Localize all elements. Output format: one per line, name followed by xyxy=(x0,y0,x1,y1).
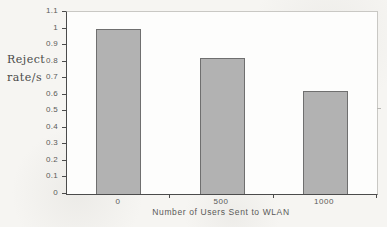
x-tick-mark xyxy=(273,194,274,198)
y-tick-mark xyxy=(62,44,66,45)
x-category-label: 500 xyxy=(199,197,243,206)
y-tick-label: 0.9 xyxy=(32,39,58,49)
y-tick-label: 0.1 xyxy=(32,171,58,181)
x-category-label: 0 xyxy=(96,197,140,206)
y-tick-mark xyxy=(62,160,66,161)
y-tick-label: 0.5 xyxy=(32,105,58,115)
y-tick-label: 0.2 xyxy=(32,155,58,165)
y-tick-mark xyxy=(62,143,66,144)
y-tick-mark xyxy=(62,28,66,29)
y-tick-mark xyxy=(62,193,66,194)
y-tick-label: 0.8 xyxy=(32,56,58,66)
x-category-label: 1000 xyxy=(302,197,346,206)
plot-area xyxy=(66,11,378,195)
y-tick-mark xyxy=(62,94,66,95)
x-tick-mark xyxy=(376,194,377,198)
y-tick-label: 0.7 xyxy=(32,72,58,82)
y-tick-mark xyxy=(62,110,66,111)
y-tick-label: 0.3 xyxy=(32,138,58,148)
y-tick-label: 1 xyxy=(32,23,58,33)
right-frame-tick-artifact xyxy=(377,108,381,109)
bar-500 xyxy=(200,58,245,194)
y-tick-label: 0 xyxy=(32,188,58,198)
x-tick-mark xyxy=(169,194,170,198)
y-tick-mark xyxy=(62,11,66,12)
y-tick-label: 0.4 xyxy=(32,122,58,132)
y-tick-mark xyxy=(62,61,66,62)
y-tick-mark xyxy=(62,127,66,128)
bar-1000 xyxy=(303,91,348,194)
bar-chart-figure: Reject rate/s Number of Users Sent to WL… xyxy=(0,0,387,227)
y-tick-label: 0.6 xyxy=(32,89,58,99)
y-tick-mark xyxy=(62,77,66,78)
y-tick-label: 1.1 xyxy=(32,6,58,16)
x-axis-title: Number of Users Sent to WLAN xyxy=(66,207,376,217)
y-tick-mark xyxy=(62,176,66,177)
bar-0 xyxy=(96,29,141,194)
